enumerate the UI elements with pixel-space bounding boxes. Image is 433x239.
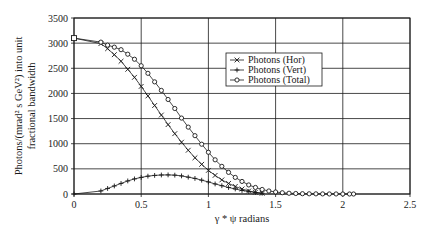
x-tick-label: 1.5 [269,199,282,210]
y-axis-ticks: 0500100015002000250030003500 [48,13,74,200]
start-marker [72,36,77,41]
x-tick-label: 1 [206,199,211,210]
y-tick-label: 1000 [48,138,68,149]
y-axis-label: Photons/(mrad² s GeV²) into unit fractio… [13,37,37,176]
x-axis-ticks: 00.511.522.5 [72,194,417,210]
x-tick-label: 0.5 [135,199,148,210]
y-tick-label: 1500 [48,113,68,124]
y-tick-label: 3500 [48,13,68,24]
x-axis-label: γ * ψ radians [214,213,270,224]
legend-label: Photons (Total) [248,74,310,86]
y-axis-label-line2: fractional bandwidth [26,62,37,150]
x-tick-label: 0 [72,199,77,210]
y-tick-label: 2000 [48,88,68,99]
y-axis-label-line1: Photons/(mrad² s GeV²) into unit [13,37,25,176]
x-tick-label: 2 [340,199,345,210]
y-tick-label: 2500 [48,63,68,74]
plot-area [74,18,410,194]
legend: Photons (Hor)Photons (Vert)Photons (Tota… [226,53,322,86]
y-tick-label: 3000 [48,38,68,49]
gridlines [74,18,410,194]
y-tick-label: 0 [63,189,68,200]
y-tick-label: 500 [53,163,68,174]
line-chart: 0500100015002000250030003500 00.511.522.… [0,0,433,239]
x-tick-label: 2.5 [404,199,417,210]
